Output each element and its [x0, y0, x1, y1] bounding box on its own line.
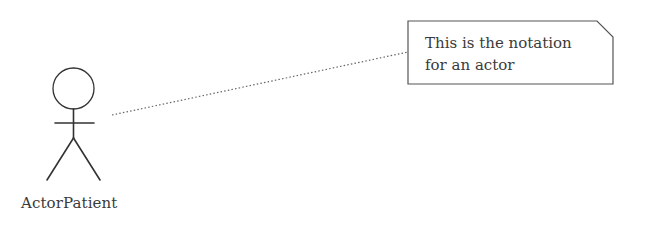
actor-left-leg: [47, 138, 74, 180]
note-line-2: for an actor: [425, 54, 572, 76]
note-text: This is the notation for an actor: [425, 32, 572, 76]
actor-head: [53, 68, 94, 109]
actor-figure[interactable]: [47, 68, 100, 180]
actor-right-leg: [74, 138, 101, 180]
note-connector-dotted-line[interactable]: [112, 52, 408, 115]
actor-name-label: ActorPatient: [21, 194, 117, 212]
note-line-1: This is the notation: [425, 32, 572, 54]
